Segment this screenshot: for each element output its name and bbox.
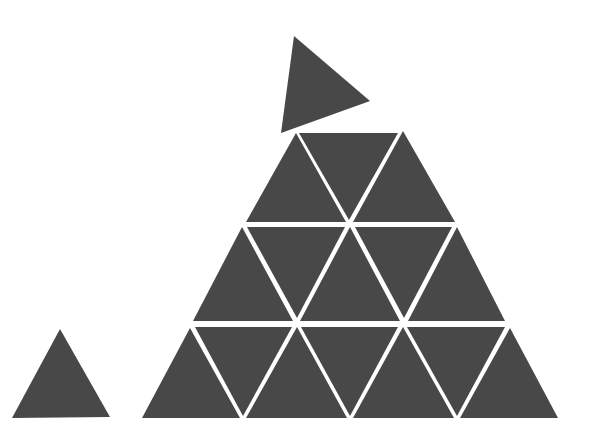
loose-triangle [281, 36, 370, 133]
small-triangle-group [12, 329, 110, 418]
loose-triangle-group [281, 36, 370, 133]
triangle-puzzle-scene [0, 0, 591, 440]
small-triangle [12, 329, 110, 418]
triangle-canvas [0, 0, 591, 440]
triangle-pyramid [142, 131, 558, 418]
